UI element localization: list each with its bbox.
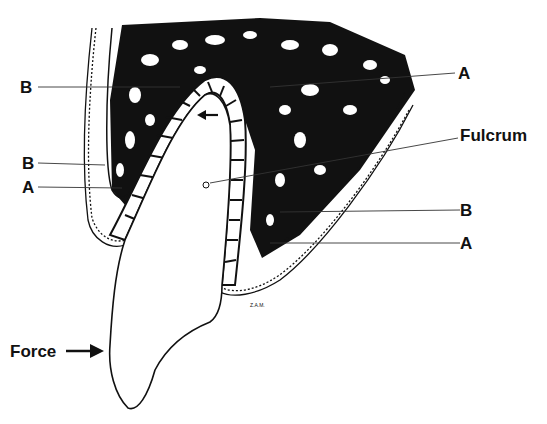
label-b-right: B [460,202,472,219]
label-fulcrum: Fulcrum [460,127,527,144]
fulcrum-point [203,182,209,188]
artist-initials: Z.A.M. [250,302,265,308]
label-b-top: B [20,79,32,96]
label-force: Force [10,343,56,360]
force-arrow-icon [66,344,104,358]
label-a-right: A [460,235,472,252]
label-a-top: A [458,65,470,82]
label-b-left: B [22,155,34,172]
label-a-left: A [22,179,34,196]
